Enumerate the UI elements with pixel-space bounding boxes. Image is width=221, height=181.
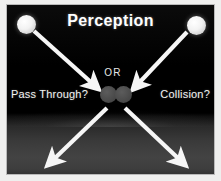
arrow-out-to-bottom-right: [125, 108, 180, 160]
meeting-disc-right-icon: [115, 86, 132, 103]
collision-label: Collision?: [160, 88, 210, 100]
arrow-in-from-top-right: [138, 32, 187, 84]
pass-through-label: Pass Through?: [11, 88, 88, 100]
arrow-out-to-bottom-left: [53, 108, 107, 160]
or-label: OR: [98, 67, 128, 78]
perception-figure: Perception OR Pass Through? Collision?: [0, 0, 221, 181]
diagram-stage: Perception OR Pass Through? Collision?: [7, 5, 214, 174]
arrow-in-from-top-left: [34, 31, 93, 84]
